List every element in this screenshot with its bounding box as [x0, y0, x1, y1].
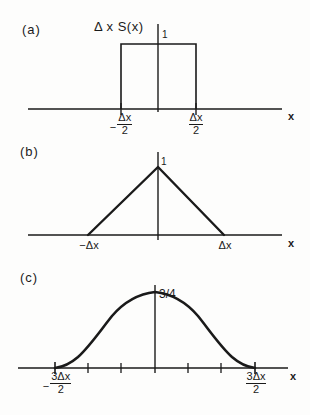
- tick-label-c-right-denominator: 2: [246, 384, 267, 396]
- tick-label-a-right-denominator: 2: [189, 125, 204, 137]
- axis-label-b-x: x: [288, 237, 294, 249]
- tick-label-a-left-denominator: 2: [117, 125, 132, 137]
- tick-label-c-right-fraction: 3Δx2: [246, 371, 267, 395]
- panel-b-plot: [28, 152, 282, 240]
- tick-label-c-right: 3Δx2: [228, 371, 284, 395]
- tick-label-c-left-fraction: 3Δx2: [50, 371, 71, 395]
- figure-container: (a) Δ x S(x) 1: [0, 0, 310, 415]
- tick-label-a-left-fraction: Δx2: [117, 112, 132, 136]
- tick-label-a-right-numerator: Δx: [189, 112, 204, 125]
- tick-label-c-left: −3Δx2: [24, 371, 90, 395]
- tick-label-a-left-sign: −: [110, 121, 117, 133]
- tick-label-a-right: Δx2: [172, 112, 220, 136]
- axis-label-a-x: x: [288, 110, 294, 122]
- tick-label-c-left-numerator: 3Δx: [50, 371, 71, 384]
- tick-label-a-right-fraction: Δx2: [189, 112, 204, 136]
- tick-label-b-right: Δx: [206, 239, 244, 251]
- panel-a-plot: [28, 24, 282, 115]
- figure-vector-graphics: [0, 0, 310, 415]
- panel-label-b: (b): [20, 144, 39, 159]
- tick-label-c-right-numerator: 3Δx: [246, 371, 267, 384]
- peak-value-label-b: 1: [161, 156, 167, 167]
- tick-label-c-left-sign: −: [43, 380, 50, 392]
- tick-label-a-left-numerator: Δx: [117, 112, 132, 125]
- panel-c-plot: [18, 285, 288, 374]
- peak-value-label-c: 3/4: [159, 287, 176, 301]
- panel-label-c: (c): [20, 270, 38, 285]
- axis-label-c-x: x: [290, 370, 296, 382]
- tick-label-b-left: −Δx: [66, 239, 112, 251]
- tick-label-a-left: −Δx2: [93, 112, 149, 136]
- tick-label-c-left-denominator: 2: [50, 384, 71, 396]
